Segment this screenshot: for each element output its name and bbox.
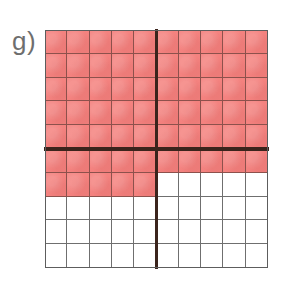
grid-cell (223, 197, 245, 221)
grid-cell (223, 220, 245, 244)
grid-cell (223, 30, 245, 54)
grid-cell (90, 197, 112, 221)
grid-cell (67, 54, 89, 78)
grid-cell (45, 54, 67, 78)
grid-cell (156, 54, 178, 78)
grid-cell (112, 173, 134, 197)
grid-cell (112, 244, 134, 268)
grid-cell (201, 149, 223, 173)
grid-cell (223, 78, 245, 102)
grid-cell (201, 125, 223, 149)
grid-cell (223, 244, 245, 268)
grid-cell (246, 101, 268, 125)
grid-cell (156, 125, 178, 149)
grid-cell (179, 78, 201, 102)
grid-cell (156, 30, 178, 54)
grid-cell (246, 149, 268, 173)
grid-cell (201, 78, 223, 102)
grid-cell (246, 54, 268, 78)
hundred-square-grid (45, 30, 268, 268)
grid-cell (112, 220, 134, 244)
grid-cell (67, 125, 89, 149)
grid-cell (179, 54, 201, 78)
grid-cell (179, 101, 201, 125)
grid-cell (201, 220, 223, 244)
grid-cell (112, 149, 134, 173)
grid-cell (134, 244, 156, 268)
grid-cell (67, 197, 89, 221)
grid-cell (90, 220, 112, 244)
part-label-g: g) (12, 28, 36, 54)
fraction-grid-figure: g) (0, 0, 284, 281)
grid-cell (90, 125, 112, 149)
grid-cell (112, 197, 134, 221)
grid-cell (45, 125, 67, 149)
grid-cell (67, 149, 89, 173)
grid-cell (179, 149, 201, 173)
grid-cell (246, 125, 268, 149)
grid-cell (134, 173, 156, 197)
grid-cell (179, 125, 201, 149)
grid-cell (45, 197, 67, 221)
grid-cell (201, 173, 223, 197)
grid-cell (134, 78, 156, 102)
grid-cell (112, 101, 134, 125)
grid-cell (90, 173, 112, 197)
grid-cell (45, 173, 67, 197)
grid-cell (90, 54, 112, 78)
grid-cell (90, 101, 112, 125)
grid-cell (201, 101, 223, 125)
grid-cell (67, 220, 89, 244)
grid-cell (45, 101, 67, 125)
grid-cell (223, 101, 245, 125)
grid-cell (134, 220, 156, 244)
grid-cell (223, 149, 245, 173)
grid-cell (246, 173, 268, 197)
grid-cell (112, 54, 134, 78)
grid-cell (156, 78, 178, 102)
grid-cell (246, 197, 268, 221)
grid-cell (246, 78, 268, 102)
grid-cell (201, 30, 223, 54)
grid-cell (112, 125, 134, 149)
grid-cell (201, 244, 223, 268)
grid-cell (201, 54, 223, 78)
grid-cell (156, 173, 178, 197)
grid-cell (246, 220, 268, 244)
grid-cell (45, 244, 67, 268)
grid-cell (156, 220, 178, 244)
grid-cell (90, 244, 112, 268)
grid-cell (45, 220, 67, 244)
grid-cell (179, 173, 201, 197)
grid-cell (134, 101, 156, 125)
grid-cell (179, 220, 201, 244)
grid-cell (223, 173, 245, 197)
grid-cell (67, 78, 89, 102)
grid-cell (246, 30, 268, 54)
grid-cell (134, 149, 156, 173)
grid-cell (134, 54, 156, 78)
grid-cell (179, 244, 201, 268)
grid-cell (45, 78, 67, 102)
grid-cell (67, 244, 89, 268)
grid-cell (67, 173, 89, 197)
grid-cell (112, 78, 134, 102)
grid-cell (223, 54, 245, 78)
grid-cell (179, 197, 201, 221)
grid-cell (112, 30, 134, 54)
grid-cell (179, 30, 201, 54)
grid-cell (67, 30, 89, 54)
grid-cell (246, 244, 268, 268)
grid-cell (134, 30, 156, 54)
grid-cell (67, 101, 89, 125)
grid-cell (201, 197, 223, 221)
grid-cell (90, 149, 112, 173)
grid-cell (134, 125, 156, 149)
grid-cell (90, 78, 112, 102)
grid-cell (134, 197, 156, 221)
grid-cell (223, 125, 245, 149)
grid-cell (156, 149, 178, 173)
grid-cell (45, 149, 67, 173)
grid-cell (156, 197, 178, 221)
grid-cell (156, 101, 178, 125)
